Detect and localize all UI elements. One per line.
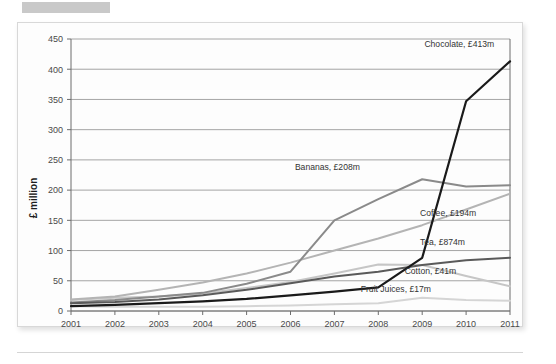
series-labels-group: Chocolate, £413mBananas, £208mCoffee, £1… bbox=[295, 39, 494, 294]
y-axis-tick-labels-group: 050100150200250300350400450 bbox=[48, 34, 63, 316]
line-chart: Chocolate, £413mBananas, £208mCoffee, £1… bbox=[18, 23, 524, 328]
y-axis-tick-label: 450 bbox=[48, 34, 63, 44]
series-label-tea: Tea, £874m bbox=[420, 237, 465, 247]
series-label-cotton: Cotton, £41m bbox=[405, 266, 457, 276]
x-axis-tick-label: 2008 bbox=[368, 319, 388, 328]
y-axis-ticks-group bbox=[67, 39, 71, 311]
x-axis-tick-label: 2011 bbox=[500, 319, 519, 328]
x-axis-tick-label: 2003 bbox=[149, 319, 169, 328]
y-axis-tick-label: 0 bbox=[58, 306, 63, 316]
y-axis-tick-label: 350 bbox=[48, 95, 63, 105]
x-axis-tick-label: 2005 bbox=[237, 319, 257, 328]
x-axis-ticks-group bbox=[71, 311, 510, 315]
redacted-heading-bar bbox=[22, 2, 110, 13]
chart-card: Chocolate, £413mBananas, £208mCoffee, £1… bbox=[17, 22, 523, 327]
y-axis-tick-label: 50 bbox=[53, 276, 63, 286]
series-label-fruit-juices: Fruit Juices, £17m bbox=[361, 284, 431, 294]
series-label-coffee: Coffee, £194m bbox=[420, 208, 476, 218]
series-label-chocolate: Chocolate, £413m bbox=[424, 39, 494, 49]
x-axis-tick-label: 2010 bbox=[456, 319, 476, 328]
x-axis-tick-label: 2001 bbox=[61, 319, 81, 328]
y-axis-tick-label: 300 bbox=[48, 125, 63, 135]
x-axis-tick-label: 2006 bbox=[280, 319, 300, 328]
y-axis-title: £ million bbox=[28, 178, 39, 219]
x-axis-tick-labels-group: 2001200220032004200520062007200820092010… bbox=[61, 319, 520, 328]
bottom-divider bbox=[17, 352, 523, 353]
y-axis-tick-label: 400 bbox=[48, 65, 63, 75]
x-axis-tick-label: 2007 bbox=[324, 319, 344, 328]
x-axis-tick-label: 2002 bbox=[105, 319, 125, 328]
x-axis-tick-label: 2009 bbox=[412, 319, 432, 328]
y-axis-tick-label: 250 bbox=[48, 155, 63, 165]
y-axis-tick-label: 200 bbox=[48, 185, 63, 195]
y-axis-tick-label: 150 bbox=[48, 216, 63, 226]
x-axis-tick-label: 2004 bbox=[193, 319, 213, 328]
y-axis-tick-label: 100 bbox=[48, 246, 63, 256]
series-label-bananas: Bananas, £208m bbox=[295, 162, 360, 172]
